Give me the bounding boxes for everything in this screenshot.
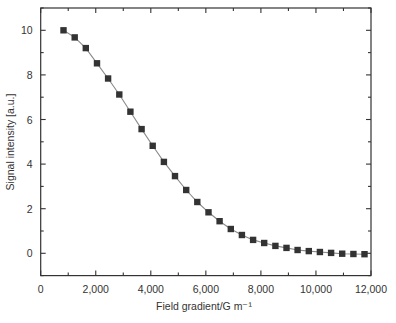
square-marker-icon (239, 232, 245, 238)
square-marker-icon (138, 126, 144, 132)
square-marker-icon (261, 240, 267, 246)
square-marker-icon (317, 249, 323, 255)
square-marker-icon (306, 248, 312, 254)
chart: 02,0004,0006,0008,00010,00012,000 024681… (0, 0, 396, 323)
square-marker-icon (116, 91, 122, 97)
x-tick-label: 12,000 (355, 283, 387, 295)
y-tick-label: 10 (21, 24, 33, 36)
square-marker-icon (172, 173, 178, 179)
x-axis-title: Field gradient/G m⁻¹ (156, 300, 252, 312)
x-axis: 02,0004,0006,0008,00010,00012,000 (38, 8, 387, 295)
y-axis-title: Signal intensity [a.u.] (4, 93, 16, 190)
square-marker-icon (127, 109, 133, 115)
square-marker-icon (272, 243, 278, 249)
square-marker-icon (294, 247, 300, 253)
square-marker-icon (339, 251, 345, 257)
series-line (64, 30, 365, 254)
square-marker-icon (183, 187, 189, 193)
x-tick-label: 10,000 (300, 283, 332, 295)
square-marker-icon (60, 27, 66, 33)
x-tick-label: 4,000 (138, 283, 164, 295)
square-marker-icon (105, 75, 111, 81)
square-marker-icon (83, 45, 89, 51)
y-tick-label: 0 (27, 247, 33, 259)
data-series (60, 27, 367, 257)
square-marker-icon (350, 251, 356, 257)
square-marker-icon (72, 34, 78, 40)
y-tick-label: 8 (27, 69, 33, 81)
x-tick-label: 2,000 (83, 283, 109, 295)
square-marker-icon (94, 60, 100, 66)
square-marker-icon (250, 237, 256, 243)
square-marker-icon (283, 245, 289, 251)
y-tick-label: 6 (27, 114, 33, 126)
plot-frame (41, 8, 371, 276)
x-tick-label: 6,000 (193, 283, 219, 295)
square-marker-icon (194, 199, 200, 205)
x-tick-label: 0 (38, 283, 44, 295)
square-marker-icon (328, 250, 334, 256)
square-marker-icon (150, 143, 156, 149)
y-axis: 0246810 (21, 8, 371, 276)
square-marker-icon (161, 159, 167, 165)
square-marker-icon (205, 209, 211, 215)
square-marker-icon (361, 251, 367, 257)
square-marker-icon (216, 218, 222, 224)
y-tick-label: 4 (27, 158, 33, 170)
square-marker-icon (228, 226, 234, 232)
x-tick-label: 8,000 (248, 283, 274, 295)
y-tick-label: 2 (27, 203, 33, 215)
